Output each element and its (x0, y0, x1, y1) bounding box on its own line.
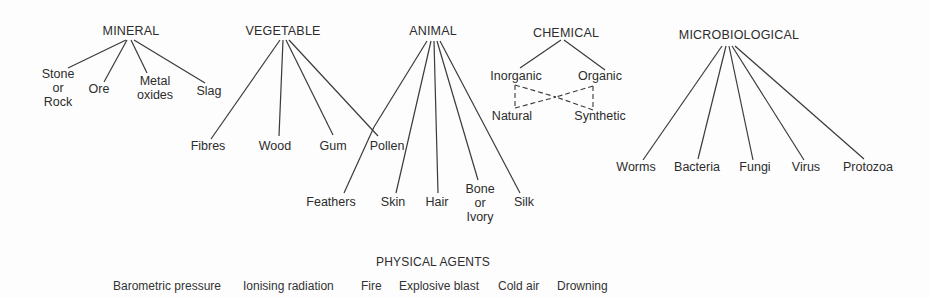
node-gum: Gum (319, 139, 346, 153)
edge-mineral-stone (68, 40, 126, 68)
category-animal: ANIMAL (409, 24, 457, 38)
dashed-organic-cross (556, 86, 593, 97)
edge-micro-fungi (729, 46, 753, 160)
agent-cold-air: Cold air (498, 279, 539, 293)
node-ore: Ore (89, 82, 110, 96)
node-natural: Natural (492, 109, 532, 123)
dashed-natural-cross (515, 97, 556, 108)
dashed-inorganic-cross (515, 85, 556, 97)
node-pollen: Pollen (370, 139, 405, 153)
node-wood: Wood (259, 139, 291, 153)
node-bone-or-ivory: Bone or Ivory (465, 182, 494, 224)
node-stone-or-rock: Stone or Rock (42, 67, 75, 109)
node-worms: Worms (616, 160, 655, 174)
node-synthetic: Synthetic (574, 109, 625, 123)
agent-ionising-radiation: Ionising radiation (243, 279, 334, 293)
connector-lines (0, 0, 930, 298)
node-organic: Organic (578, 69, 622, 83)
physical-agents-heading: PHYSICAL AGENTS (376, 255, 490, 269)
node-inorganic: Inorganic (490, 69, 541, 83)
node-bacteria: Bacteria (674, 160, 720, 174)
edge-micro-protozoa (735, 46, 864, 159)
node-silk: Silk (514, 195, 534, 209)
agent-fire: Fire (361, 279, 382, 293)
edge-animal-pollen (374, 41, 427, 127)
node-skin: Skin (381, 195, 405, 209)
node-slag: Slag (196, 84, 221, 98)
classification-diagram: MINERAL VEGETABLE ANIMAL CHEMICAL MICROB… (0, 0, 930, 298)
category-mineral: MINERAL (103, 24, 160, 38)
edge-micro-virus (732, 46, 804, 160)
edge-animal-bone (437, 41, 478, 180)
edge-chemical-organic (564, 40, 605, 70)
edge-vegetable-wood (279, 40, 283, 136)
category-chemical: CHEMICAL (533, 26, 599, 40)
node-metal-oxides: Metal oxides (137, 74, 173, 102)
edge-mineral-metal (131, 40, 147, 73)
edge-vegetable-pollen (289, 40, 378, 136)
agent-barometric-pressure: Barometric pressure (113, 279, 221, 293)
edge-animal-feathers (344, 127, 374, 193)
edge-vegetable-gum (286, 40, 333, 135)
node-fungi: Fungi (739, 160, 770, 174)
node-fibres: Fibres (191, 139, 226, 153)
edge-micro-worms (643, 46, 722, 160)
edge-chemical-inorganic (520, 40, 561, 68)
node-feathers: Feathers (306, 195, 355, 209)
node-hair: Hair (426, 195, 449, 209)
agent-explosive-blast: Explosive blast (399, 279, 479, 293)
node-protozoa: Protozoa (843, 160, 893, 174)
node-virus: Virus (792, 160, 820, 174)
agent-drowning: Drowning (557, 279, 608, 293)
category-microbiological: MICROBIOLOGICAL (679, 28, 799, 42)
category-vegetable: VEGETABLE (245, 24, 320, 38)
edge-mineral-ore (104, 40, 127, 82)
edge-animal-hair (434, 41, 438, 193)
edge-micro-bacteria (698, 46, 726, 159)
